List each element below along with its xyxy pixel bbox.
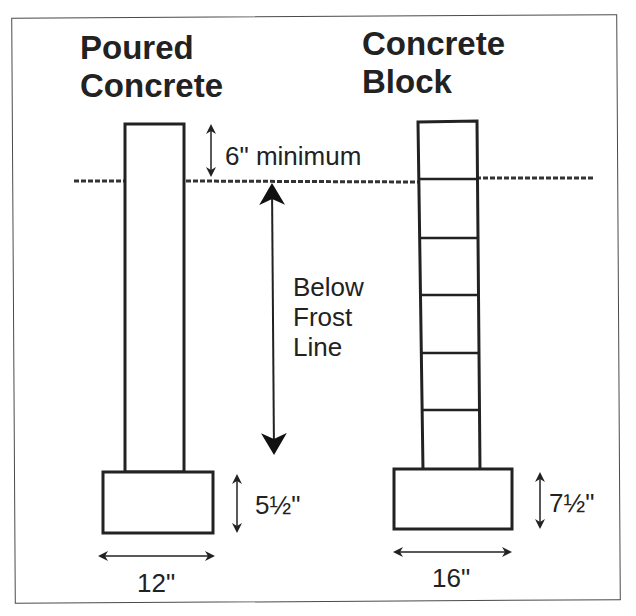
concrete-block-footing: [394, 469, 512, 529]
block-footing-height-label: 7½": [549, 489, 594, 517]
poured-footing-height-label: 5½": [255, 491, 300, 519]
frost-label-line3: Line: [293, 332, 364, 362]
frost-label-line1: Below: [293, 272, 364, 302]
concrete-block-pier: [418, 121, 480, 470]
poured-concrete-footing: [103, 472, 213, 533]
poured-footing-width-label: 12": [137, 569, 175, 597]
six-inch-minimum-label: 6" minimum: [225, 142, 361, 170]
block-footing-width-label: 16": [432, 564, 470, 592]
poured-concrete-pier: [125, 124, 184, 472]
frost-label-line2: Frost: [293, 302, 364, 332]
below-frost-line-label: Below Frost Line: [293, 272, 364, 362]
frost-depth-arrow: [272, 185, 274, 453]
